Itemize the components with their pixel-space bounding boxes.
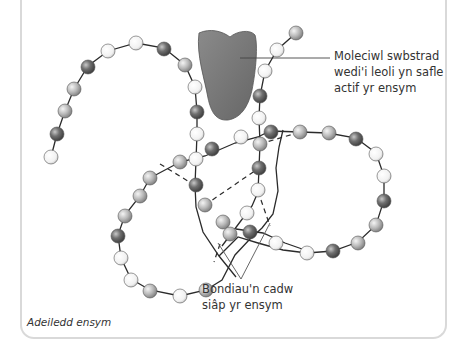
chain-top-band	[150, 131, 384, 256]
figure-caption: Adeiledd ensym	[27, 316, 111, 328]
substrate-label: Moleciwl swbstrad wedi'i leoli yn safle …	[334, 48, 443, 96]
bonds-label: Bondiau'n cadw siâp yr ensym	[202, 281, 293, 313]
substrate-molecule	[198, 30, 256, 120]
